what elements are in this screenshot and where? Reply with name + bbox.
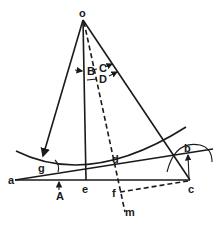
label-angle-a: A	[56, 190, 64, 202]
arrow-c-b	[188, 155, 189, 178]
dashed-ray-o-m	[84, 22, 125, 212]
curve-g-d	[16, 127, 186, 165]
label-c: c	[188, 183, 194, 195]
angle-arc-a	[55, 160, 59, 172]
geometry-diagram: o B C D g d b a e c A f m	[0, 0, 224, 229]
angle-d-arrow	[109, 72, 117, 76]
label-angle-d: D	[99, 73, 107, 85]
label-o: o	[79, 7, 86, 19]
label-angle-b: B	[87, 65, 95, 77]
label-d: d	[112, 153, 119, 165]
angle-d-line-left	[87, 79, 97, 80]
label-f: f	[112, 187, 116, 199]
label-a: a	[8, 174, 15, 186]
ray-o-g	[43, 20, 83, 156]
angle-b-arrow	[75, 70, 82, 71]
label-g: g	[38, 162, 45, 174]
label-m: m	[125, 206, 135, 218]
dashed-f-c	[120, 181, 188, 192]
ray-o-e	[83, 20, 86, 180]
label-e: e	[82, 183, 88, 195]
label-b: b	[184, 142, 191, 154]
